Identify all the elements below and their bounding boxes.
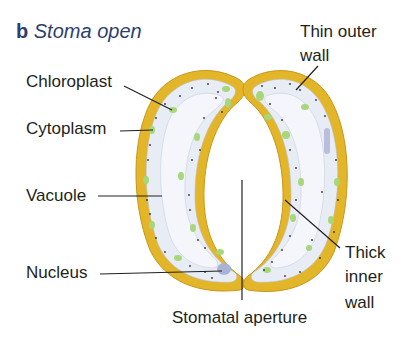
label-stomatal-aperture: Stomatal aperture <box>172 306 307 330</box>
label-thick-inner-wall-1: Thick <box>345 241 386 265</box>
stoma-diagram <box>0 0 414 340</box>
right-nucleus <box>324 128 330 154</box>
left-guard-cell <box>136 70 245 291</box>
label-thin-outer-wall-1: Thin outer <box>300 20 377 44</box>
label-nucleus: Nucleus <box>26 261 87 285</box>
left-nucleus <box>217 263 231 275</box>
label-cytoplasm: Cytoplasm <box>26 117 106 141</box>
label-thick-inner-wall-3: wall <box>345 291 374 315</box>
label-chloroplast: Chloroplast <box>26 70 112 94</box>
label-vacuole: Vacuole <box>26 184 86 208</box>
label-thick-inner-wall-2: inner <box>345 265 383 289</box>
label-thin-outer-wall-2: wall <box>300 44 329 68</box>
right-guard-cell <box>243 71 347 292</box>
